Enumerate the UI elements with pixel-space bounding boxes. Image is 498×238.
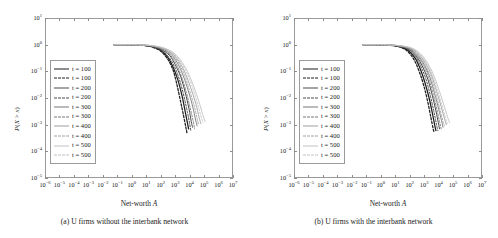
- series-line: [114, 45, 191, 131]
- y-tick-label: 10−2: [31, 94, 42, 101]
- x-tick-mark: [308, 175, 309, 178]
- y-tick-mark: [479, 71, 482, 72]
- x-tick-mark: [323, 175, 324, 178]
- legend-label: t = 100: [72, 75, 91, 82]
- legend-line-swatch: [303, 94, 318, 101]
- legend-line-swatch: [54, 75, 69, 82]
- x-tick-mark: [59, 175, 60, 178]
- legend-entry: t = 200: [54, 83, 91, 93]
- x-tick-mark: [294, 18, 295, 21]
- legend-line: [54, 107, 69, 108]
- y-tick-label: 100: [282, 41, 291, 48]
- y-tick-label: 10−3: [31, 121, 42, 128]
- x-tick-mark: [204, 175, 205, 178]
- x-tick-mark: [219, 175, 220, 178]
- legend-label: t = 400: [321, 133, 340, 140]
- x-tick-label: 103: [420, 181, 429, 188]
- y-tick-mark: [294, 98, 297, 99]
- x-axis-label-text-b: Net-worth: [370, 199, 402, 208]
- legend-line-swatch: [303, 104, 318, 111]
- legend-entry: t = 300: [54, 112, 91, 122]
- x-tick-mark: [45, 175, 46, 178]
- x-tick-mark: [352, 175, 353, 178]
- x-tick-label: 100: [127, 181, 136, 188]
- x-tick-label: 103: [171, 181, 180, 188]
- x-tick-mark: [233, 18, 234, 21]
- panel-a: P(X > x) 10110010−110−210−310−410−5 10−6…: [0, 0, 249, 238]
- legend-label: t = 400: [321, 123, 340, 130]
- y-tick-label: 10−3: [280, 121, 291, 128]
- x-tick-mark: [117, 175, 118, 178]
- y-tick-label: 101: [33, 14, 42, 21]
- x-axis-label-symbol-b: A: [402, 199, 407, 208]
- legend-line: [303, 107, 318, 108]
- x-tick-mark: [219, 18, 220, 21]
- legend-entry: t = 100: [54, 64, 91, 74]
- legend-line-swatch: [303, 123, 318, 130]
- y-tick-mark: [230, 71, 233, 72]
- legend-entry: t = 200: [303, 83, 340, 93]
- y-tick-mark: [230, 45, 233, 46]
- legend-line: [54, 116, 69, 117]
- x-tick-mark: [337, 175, 338, 178]
- legend-entry: t = 300: [54, 102, 91, 112]
- caption-a: (a) U firms without the interbank networ…: [0, 217, 249, 226]
- y-tick-mark: [294, 178, 297, 179]
- x-tick-mark: [453, 18, 454, 21]
- legend-entry: t = 400: [54, 131, 91, 141]
- x-tick-mark: [190, 18, 191, 21]
- x-tick-mark: [439, 175, 440, 178]
- legend-line: [303, 87, 318, 88]
- legend-line-swatch: [303, 142, 318, 149]
- legend-entry: t = 300: [303, 112, 340, 122]
- y-tick-label: 10−4: [280, 148, 291, 155]
- x-tick-mark: [45, 18, 46, 21]
- x-tick-mark: [146, 18, 147, 21]
- x-tick-mark: [161, 175, 162, 178]
- x-tick-label: 10−3: [83, 181, 94, 188]
- legend-entry: t = 100: [303, 64, 340, 74]
- x-tick-label: 106: [214, 181, 223, 188]
- x-tick-mark: [395, 175, 396, 178]
- x-tick-mark: [103, 18, 104, 21]
- x-tick-mark: [88, 175, 89, 178]
- x-tick-mark: [395, 18, 396, 21]
- y-tick-label: 10−1: [31, 68, 42, 75]
- legend-label: t = 100: [321, 66, 340, 73]
- x-tick-label: 10−6: [39, 181, 50, 188]
- x-tick-label: 104: [185, 181, 194, 188]
- x-tick-mark: [74, 175, 75, 178]
- y-tick-label: 10−2: [280, 94, 291, 101]
- y-tick-mark: [45, 151, 48, 152]
- legend-label: t = 300: [72, 104, 91, 111]
- x-tick-label: 107: [229, 181, 238, 188]
- legend-line-swatch: [54, 113, 69, 120]
- legend-entry: t = 200: [303, 93, 340, 103]
- legend-label: t = 100: [72, 66, 91, 73]
- legend-label: t = 200: [72, 94, 91, 101]
- x-tick-mark: [294, 175, 295, 178]
- x-tick-mark: [161, 18, 162, 21]
- y-tick-mark: [45, 178, 48, 179]
- x-tick-label: 101: [142, 181, 151, 188]
- x-tick-label: 102: [405, 181, 414, 188]
- legend-label: t = 300: [321, 104, 340, 111]
- x-tick-mark: [482, 175, 483, 178]
- legend-entry: t = 500: [303, 141, 340, 151]
- x-tick-mark: [233, 175, 234, 178]
- legend-line-swatch: [54, 132, 69, 139]
- legend-line: [303, 116, 318, 117]
- legend-line-swatch: [303, 65, 318, 72]
- legend-entry: t = 500: [54, 150, 91, 160]
- y-tick-mark: [479, 151, 482, 152]
- x-axis-label-b: Net-worth A: [294, 199, 482, 208]
- legend-line: [54, 78, 69, 79]
- panel-b: P(X > x) 10110010−110−210−310−410−5 10−6…: [249, 0, 498, 238]
- legend-label: t = 200: [321, 94, 340, 101]
- legend-label: t = 500: [72, 142, 91, 149]
- x-tick-mark: [482, 18, 483, 21]
- x-tick-mark: [468, 18, 469, 21]
- legend-line-swatch: [54, 94, 69, 101]
- legend-line-swatch: [303, 75, 318, 82]
- y-tick-mark: [45, 98, 48, 99]
